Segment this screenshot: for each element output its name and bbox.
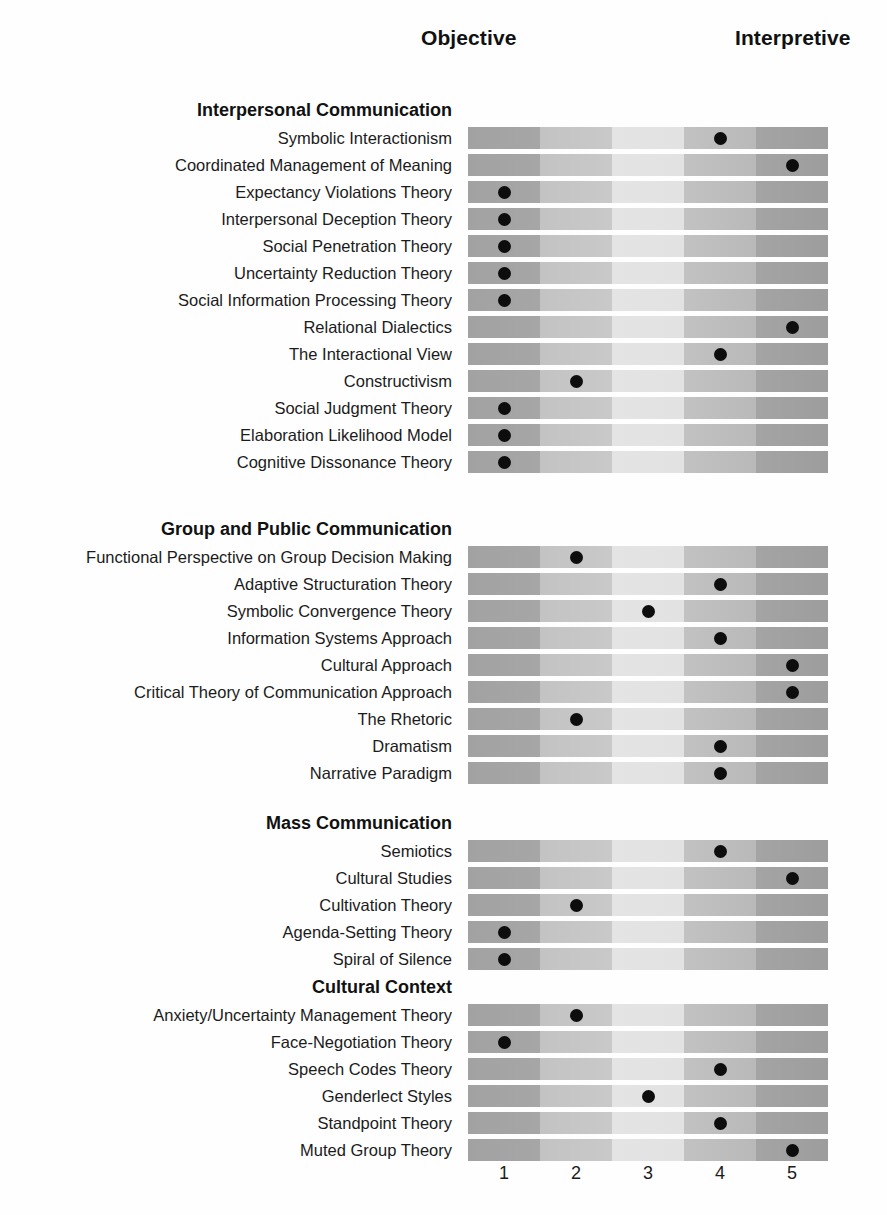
value-marker-dot[interactable] — [714, 740, 727, 753]
value-marker-dot[interactable] — [498, 1036, 511, 1049]
chart-row[interactable]: Social Information Processing Theory — [0, 289, 887, 311]
chart-row[interactable]: Cultural Approach — [0, 654, 887, 676]
value-marker-dot[interactable] — [498, 240, 511, 253]
value-marker-dot[interactable] — [570, 713, 583, 726]
chart-row[interactable]: Narrative Paradigm — [0, 762, 887, 784]
value-marker-dot[interactable] — [498, 213, 511, 226]
gradient-scale-band — [468, 867, 828, 889]
chart-row[interactable]: Anxiety/Uncertainty Management Theory — [0, 1004, 887, 1026]
value-marker-dot[interactable] — [498, 294, 511, 307]
gradient-scale-band — [468, 840, 828, 862]
value-marker-dot[interactable] — [714, 1063, 727, 1076]
chart-row[interactable]: Interpersonal Deception Theory — [0, 208, 887, 230]
row-label: Speech Codes Theory — [0, 1058, 452, 1080]
chart-row[interactable]: Dramatism — [0, 735, 887, 757]
chart-row[interactable]: Agenda-Setting Theory — [0, 921, 887, 943]
scale-tick-5: 5 — [777, 1163, 807, 1184]
scale-tick-4: 4 — [705, 1163, 735, 1184]
chart-row[interactable]: Spiral of Silence — [0, 948, 887, 970]
value-marker-dot[interactable] — [570, 375, 583, 388]
value-marker-dot[interactable] — [714, 767, 727, 780]
chart-row[interactable]: Cognitive Dissonance Theory — [0, 451, 887, 473]
chart-row[interactable]: Symbolic Interactionism — [0, 127, 887, 149]
chart-row[interactable]: Adaptive Structuration Theory — [0, 573, 887, 595]
value-marker-dot[interactable] — [714, 348, 727, 361]
value-marker-dot[interactable] — [498, 402, 511, 415]
value-marker-dot[interactable] — [786, 321, 799, 334]
row-label: Cognitive Dissonance Theory — [0, 451, 452, 473]
chart-row[interactable]: Semiotics — [0, 840, 887, 862]
row-label: Cultural Studies — [0, 867, 452, 889]
chart-row[interactable]: Expectancy Violations Theory — [0, 181, 887, 203]
row-label: Elaboration Likelihood Model — [0, 424, 452, 446]
value-marker-dot[interactable] — [570, 1009, 583, 1022]
row-label: Cultural Approach — [0, 654, 452, 676]
gradient-scale-band — [468, 1004, 828, 1026]
value-marker-dot[interactable] — [498, 456, 511, 469]
row-label: The Interactional View — [0, 343, 452, 365]
row-label: Expectancy Violations Theory — [0, 181, 452, 203]
row-label: Social Penetration Theory — [0, 235, 452, 257]
chart-row[interactable]: Relational Dialectics — [0, 316, 887, 338]
chart-row[interactable]: Information Systems Approach — [0, 627, 887, 649]
chart-row[interactable]: Speech Codes Theory — [0, 1058, 887, 1080]
row-label: Dramatism — [0, 735, 452, 757]
value-marker-dot[interactable] — [786, 159, 799, 172]
gradient-scale-band — [468, 181, 828, 203]
chart-row[interactable]: Cultural Studies — [0, 867, 887, 889]
chart-row[interactable]: Elaboration Likelihood Model — [0, 424, 887, 446]
value-marker-dot[interactable] — [570, 551, 583, 564]
gradient-scale-band — [468, 208, 828, 230]
gradient-scale-band — [468, 1031, 828, 1053]
value-marker-dot[interactable] — [786, 659, 799, 672]
row-label: Genderlect Styles — [0, 1085, 452, 1107]
gradient-scale-band — [468, 262, 828, 284]
chart-row[interactable]: Social Penetration Theory — [0, 235, 887, 257]
chart-row[interactable]: Coordinated Management of Meaning — [0, 154, 887, 176]
value-marker-dot[interactable] — [714, 632, 727, 645]
gradient-scale-band — [468, 1058, 828, 1080]
gradient-scale-band — [468, 600, 828, 622]
value-marker-dot[interactable] — [786, 872, 799, 885]
value-marker-dot[interactable] — [714, 578, 727, 591]
chart-row[interactable]: Face-Negotiation Theory — [0, 1031, 887, 1053]
gradient-scale-band — [468, 370, 828, 392]
gradient-scale-band — [468, 154, 828, 176]
value-marker-dot[interactable] — [498, 926, 511, 939]
gradient-scale-band — [468, 289, 828, 311]
value-marker-dot[interactable] — [714, 132, 727, 145]
value-marker-dot[interactable] — [498, 267, 511, 280]
chart-row[interactable]: The Interactional View — [0, 343, 887, 365]
value-marker-dot[interactable] — [498, 429, 511, 442]
value-marker-dot[interactable] — [498, 953, 511, 966]
gradient-scale-band — [468, 708, 828, 730]
value-marker-dot[interactable] — [714, 1117, 727, 1130]
axis-label-objective: Objective — [421, 26, 516, 50]
gradient-scale-band — [468, 451, 828, 473]
value-marker-dot[interactable] — [714, 845, 727, 858]
chart-row[interactable]: The Rhetoric — [0, 708, 887, 730]
chart-row[interactable]: Constructivism — [0, 370, 887, 392]
value-marker-dot[interactable] — [498, 186, 511, 199]
gradient-scale-band — [468, 654, 828, 676]
chart-row[interactable]: Critical Theory of Communication Approac… — [0, 681, 887, 703]
value-marker-dot[interactable] — [642, 1090, 655, 1103]
value-marker-dot[interactable] — [786, 686, 799, 699]
chart-row[interactable]: Genderlect Styles — [0, 1085, 887, 1107]
chart-row[interactable]: Cultivation Theory — [0, 894, 887, 916]
chart-row[interactable]: Social Judgment Theory — [0, 397, 887, 419]
chart-row[interactable]: Muted Group Theory — [0, 1139, 887, 1161]
chart-row[interactable]: Standpoint Theory — [0, 1112, 887, 1134]
value-marker-dot[interactable] — [642, 605, 655, 618]
row-label: Symbolic Interactionism — [0, 127, 452, 149]
chart-row[interactable]: Uncertainty Reduction Theory — [0, 262, 887, 284]
value-marker-dot[interactable] — [570, 899, 583, 912]
gradient-scale-band — [468, 235, 828, 257]
row-label: Semiotics — [0, 840, 452, 862]
gradient-scale-band — [468, 762, 828, 784]
chart-row[interactable]: Symbolic Convergence Theory — [0, 600, 887, 622]
chart-row[interactable]: Functional Perspective on Group Decision… — [0, 546, 887, 568]
value-marker-dot[interactable] — [786, 1144, 799, 1157]
row-label: Uncertainty Reduction Theory — [0, 262, 452, 284]
row-label: Narrative Paradigm — [0, 762, 452, 784]
